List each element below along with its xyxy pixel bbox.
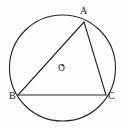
geometry-figure: A B C O: [0, 0, 125, 130]
segment-AB: [18, 22, 84, 95]
center-label-o: O: [58, 64, 65, 74]
vertex-label-c: C: [108, 91, 115, 101]
vertex-label-b: B: [9, 91, 16, 101]
vertex-label-a: A: [80, 6, 87, 16]
